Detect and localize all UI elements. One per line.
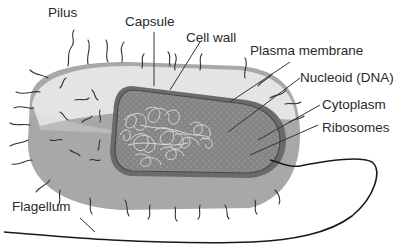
- bacterial-cell-diagram: Pilus Capsule Cell wall Plasma membrane …: [0, 0, 416, 250]
- label-capsule: Capsule: [125, 15, 175, 29]
- label-ribosomes: Ribosomes: [322, 121, 390, 135]
- label-flagellum: Flagellum: [12, 200, 71, 214]
- label-cytoplasm: Cytoplasm: [322, 98, 386, 112]
- label-plasma-membrane: Plasma membrane: [250, 44, 363, 58]
- label-nucleoid: Nucleoid (DNA): [300, 71, 394, 85]
- label-pilus: Pilus: [48, 6, 77, 20]
- label-cell-wall: Cell wall: [186, 31, 236, 45]
